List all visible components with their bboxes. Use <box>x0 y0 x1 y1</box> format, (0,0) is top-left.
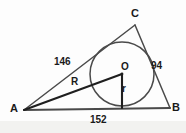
side-ac-line <box>24 25 135 110</box>
side-ab-line <box>24 108 170 110</box>
side-length-ab: 152 <box>90 115 107 125</box>
incenter-label-o: O <box>121 62 129 72</box>
distance-ao-label-r: R <box>71 77 78 87</box>
incenter-point <box>121 73 124 76</box>
geometry-figure: A B C O R r 146 94 152 <box>0 0 186 133</box>
inradius-label-r: r <box>122 84 126 94</box>
vertex-label-c: C <box>131 8 139 19</box>
vertex-label-b: B <box>172 102 180 113</box>
side-length-ac: 146 <box>54 57 71 67</box>
vertex-label-a: A <box>10 103 18 114</box>
side-length-bc: 94 <box>151 61 162 71</box>
